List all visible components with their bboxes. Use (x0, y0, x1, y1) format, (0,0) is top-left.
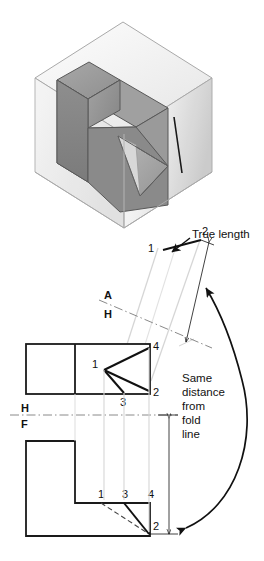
aux-extension-tick (201, 240, 214, 245)
front-view-point-3-label: 3 (122, 488, 128, 500)
same-distance-line-5: line (182, 428, 200, 440)
front-view-outline (26, 441, 150, 536)
fold-line-label-a: A (104, 289, 112, 301)
aux-projection-rail-right (151, 240, 200, 381)
front-view-distance-dimension (149, 415, 178, 534)
front-view: 1 3 4 2 (26, 441, 159, 536)
true-length-label: True length (192, 228, 250, 240)
drawing-canvas: 1 2 True length A H 1 4 2 3 H F (0, 0, 264, 561)
top-view-outline (26, 344, 150, 394)
aux-distance-dimension-line (186, 242, 209, 342)
aux-point-1-label: 1 (148, 242, 154, 254)
same-distance-line-1: Same (182, 372, 212, 384)
technical-drawing-figure: 1 2 True length A H 1 4 2 3 H F (0, 0, 264, 561)
pictorial-glass-box-view (35, 22, 212, 228)
top-view: 1 4 2 3 (26, 340, 159, 408)
same-distance-line-2: distance (182, 386, 225, 398)
same-distance-line-3: from (182, 400, 205, 412)
front-view-point-1-label: 1 (98, 488, 104, 500)
fold-line-label-h-lower: H (21, 402, 29, 414)
top-view-point-1-label: 1 (92, 358, 98, 370)
true-length-leader-arrow (172, 238, 190, 252)
fold-line-label-f: F (21, 418, 28, 430)
top-view-point-2-label: 2 (153, 386, 159, 398)
fold-line-label-h-upper: H (104, 308, 112, 320)
same-distance-annotation: Same distance from fold line (182, 288, 247, 528)
fold-line-h-f-group: H F (10, 402, 178, 430)
top-view-point-3-label: 3 (120, 396, 126, 408)
front-view-point-2-label: 2 (153, 520, 159, 532)
top-view-point-4-label: 4 (153, 340, 159, 352)
same-distance-line-4: fold (182, 414, 201, 426)
